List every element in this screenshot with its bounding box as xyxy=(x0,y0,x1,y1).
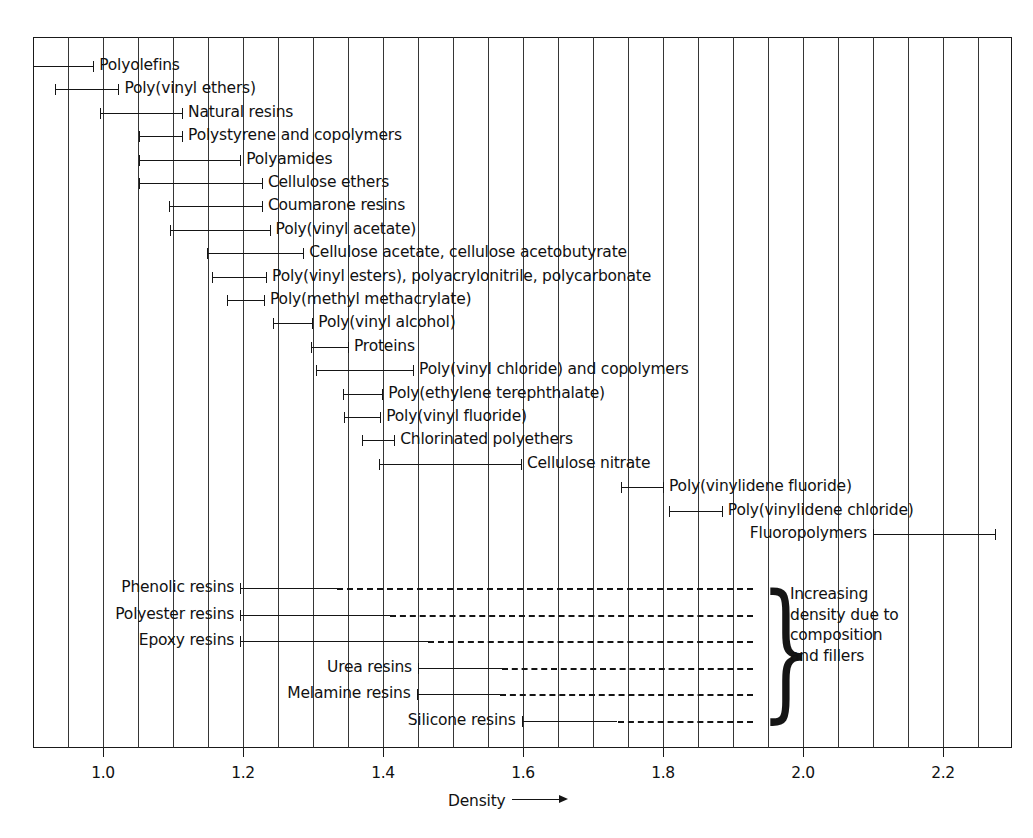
range-end-cap xyxy=(139,178,140,189)
range-bar xyxy=(273,323,312,324)
series-label: Urea resins xyxy=(327,660,412,676)
range-bar xyxy=(169,206,262,207)
range-bar-solid xyxy=(240,641,428,642)
range-bar xyxy=(139,160,240,161)
range-end-cap xyxy=(240,583,241,594)
range-end-cap xyxy=(227,295,228,306)
range-end-cap xyxy=(873,529,874,540)
range-bar-dashed xyxy=(390,615,753,617)
range-end-cap xyxy=(343,389,344,400)
range-bar xyxy=(621,487,663,488)
series-label: Poly(vinyl acetate) xyxy=(276,222,417,238)
range-end-cap xyxy=(669,506,670,517)
range-bar xyxy=(669,511,722,512)
x-axis-tick-label: 1.6 xyxy=(511,764,534,782)
range-bar xyxy=(311,347,348,348)
range-end-cap xyxy=(663,482,664,493)
x-axis-tick xyxy=(803,748,804,757)
range-end-cap xyxy=(240,155,241,166)
series-label: Poly(ethylene terephthalate) xyxy=(388,386,605,402)
series-label: Poly(vinyl alcohol) xyxy=(318,315,455,331)
series-label: Chlorinated polyethers xyxy=(400,432,573,448)
x-axis-tick xyxy=(383,748,384,757)
range-end-cap xyxy=(182,131,183,142)
series-label: Cellulose nitrate xyxy=(527,456,650,472)
range-end-cap xyxy=(380,412,381,423)
series-label: Silicone resins xyxy=(408,713,516,729)
range-bar xyxy=(212,277,266,278)
gridline xyxy=(908,37,909,748)
x-axis-tick xyxy=(103,748,104,757)
series-label: Cellulose ethers xyxy=(268,175,389,191)
axis-arrow-head xyxy=(559,795,568,803)
range-end-cap xyxy=(264,295,265,306)
range-bar xyxy=(55,89,118,90)
series-label: Epoxy resins xyxy=(139,633,234,649)
range-end-cap xyxy=(521,459,522,470)
range-end-cap xyxy=(262,201,263,212)
range-end-cap xyxy=(100,108,101,119)
range-end-cap xyxy=(995,529,996,540)
range-bar xyxy=(343,394,382,395)
range-end-cap xyxy=(55,84,56,95)
series-label: Polyolefins xyxy=(99,58,180,74)
series-label: Poly(vinyl chloride) and copolymers xyxy=(419,362,689,378)
x-axis-tick-label: 1.8 xyxy=(651,764,674,782)
range-end-cap xyxy=(169,201,170,212)
range-end-cap xyxy=(379,459,380,470)
gridline xyxy=(103,37,104,748)
range-bar xyxy=(227,300,264,301)
gridline xyxy=(978,37,979,748)
x-axis-tick xyxy=(243,748,244,757)
range-end-cap xyxy=(722,506,723,517)
range-end-cap xyxy=(93,61,94,72)
range-end-cap xyxy=(311,342,312,353)
x-axis-tick-label: 1.4 xyxy=(371,764,394,782)
range-end-cap xyxy=(266,272,267,283)
series-label: Polystyrene and copolymers xyxy=(188,128,402,144)
range-end-cap xyxy=(182,108,183,119)
series-label: Coumarone resins xyxy=(268,198,405,214)
gridline xyxy=(943,37,944,748)
x-axis-tick-label: 1.2 xyxy=(231,764,254,782)
x-axis-title: Density xyxy=(448,792,506,810)
range-end-cap xyxy=(344,412,345,423)
brace-annotation-text: Increasing density due to composition an… xyxy=(790,584,899,666)
range-end-cap xyxy=(170,225,171,236)
range-bar-solid xyxy=(240,615,390,616)
series-label: Poly(methyl methacrylate) xyxy=(270,292,471,308)
range-end-cap xyxy=(348,342,349,353)
axis-arrow-line xyxy=(512,799,560,800)
x-axis-tick-label: 2.2 xyxy=(931,764,954,782)
range-end-cap xyxy=(394,435,395,446)
series-label: Natural resins xyxy=(188,105,293,121)
range-end-cap xyxy=(418,663,419,674)
range-bar xyxy=(379,464,521,465)
gridline xyxy=(68,37,69,748)
range-end-cap xyxy=(240,610,241,621)
x-axis-tick xyxy=(943,748,944,757)
range-bar-dashed xyxy=(500,694,753,696)
x-axis-tick-label: 2.0 xyxy=(791,764,814,782)
range-bar-solid xyxy=(417,694,500,695)
range-bar-solid xyxy=(240,588,337,589)
x-axis-tick xyxy=(663,748,664,757)
series-label: Polyester resins xyxy=(115,607,234,623)
range-bar-dashed xyxy=(618,721,753,723)
series-label: Poly(vinylidene chloride) xyxy=(728,503,914,519)
series-label: Poly(vinyl esters), polyacrylonitrile, p… xyxy=(272,269,651,285)
range-bar xyxy=(873,534,995,535)
series-label: Fluoropolymers xyxy=(750,526,867,542)
series-label: Poly(vinyl ethers) xyxy=(124,81,255,97)
series-label: Polyamides xyxy=(246,152,332,168)
range-bar-solid xyxy=(418,668,502,669)
range-end-cap xyxy=(303,248,304,259)
range-end-cap xyxy=(262,178,263,189)
range-end-cap xyxy=(273,318,274,329)
range-bar-solid xyxy=(522,721,618,722)
range-bar-dashed xyxy=(337,588,753,590)
range-end-cap xyxy=(382,389,383,400)
range-bar xyxy=(344,417,380,418)
range-end-cap xyxy=(413,365,414,376)
range-end-cap xyxy=(312,318,313,329)
